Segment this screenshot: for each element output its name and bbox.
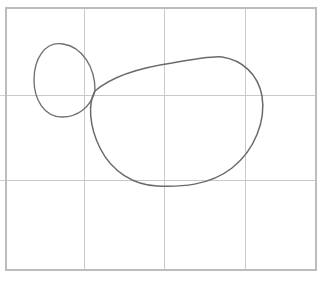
figure-background [0, 0, 325, 283]
figure-canvas [0, 0, 325, 283]
figure-svg [0, 0, 325, 283]
